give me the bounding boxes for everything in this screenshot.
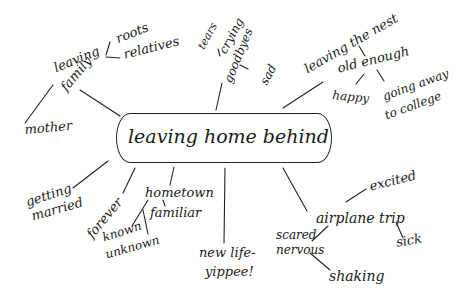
connector-unknown xyxy=(143,210,148,234)
node-familiar: familiar xyxy=(150,206,201,219)
connector-forever-center xyxy=(123,168,135,193)
connector-happy xyxy=(356,74,364,84)
node-scared: scared xyxy=(276,229,317,241)
node-happy: happy xyxy=(332,89,370,105)
connector-nest-center xyxy=(283,82,323,108)
connector-excited xyxy=(346,189,366,202)
node-yippee: yippee! xyxy=(205,265,254,278)
node-shaking: shaking xyxy=(329,269,385,283)
connector-hometown-center xyxy=(170,167,174,185)
center-label: leaving home behind xyxy=(128,127,329,146)
connector-family-center xyxy=(80,90,120,116)
node-mother: mother xyxy=(24,119,73,136)
connector-airplane-center xyxy=(283,168,307,211)
node-nervous: nervous xyxy=(276,244,324,256)
connector-goodbyes-center xyxy=(216,83,222,110)
connector-married-center xyxy=(73,161,108,188)
connector-college xyxy=(377,70,384,81)
mind-map-canvas: leaving home behind leaving family roots… xyxy=(0,0,463,304)
connector-newlife-center xyxy=(224,168,225,243)
connector-relatives xyxy=(106,57,120,58)
connector-family-mother xyxy=(25,85,53,123)
connector-roots xyxy=(106,42,110,55)
node-new-life: new life- xyxy=(199,246,256,259)
node-airplane-trip: airplane trip xyxy=(316,211,405,225)
node-hometown: hometown xyxy=(145,186,214,199)
